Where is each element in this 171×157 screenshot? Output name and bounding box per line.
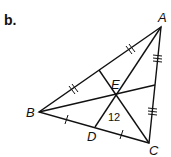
vertex-label-c: C <box>149 143 159 157</box>
vertex-label-b: B <box>26 105 35 120</box>
triangle-diagram: b. A B C D E 12 <box>0 0 171 157</box>
triangle-abc <box>39 27 161 143</box>
vertex-label-a: A <box>157 10 167 25</box>
part-label: b. <box>4 12 16 28</box>
median-b <box>39 85 155 112</box>
vertex-label-d: D <box>87 129 96 144</box>
median-c <box>99 70 149 143</box>
segment-length-ed: 12 <box>108 111 120 123</box>
vertex-label-e: E <box>111 77 120 92</box>
